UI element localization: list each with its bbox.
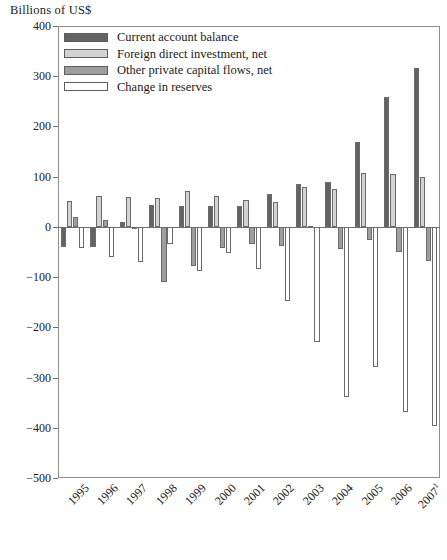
y-tick-label: −300	[26, 370, 51, 385]
bar-foreign-direct-investment-net-2002	[273, 202, 278, 227]
bar-change-in-reserves-1997	[138, 227, 143, 262]
bar-group-bars	[411, 26, 440, 478]
bar-foreign-direct-investment-net-2007	[420, 177, 425, 227]
bar-group-bars	[352, 26, 381, 478]
x-tick-label: 2000	[212, 481, 240, 509]
x-tick-label: 2002	[270, 481, 298, 509]
bar-group	[323, 26, 352, 478]
bar-change-in-reserves-2006	[403, 227, 408, 412]
bar-change-in-reserves-2000	[226, 227, 231, 254]
y-tick-label: 0	[45, 219, 51, 234]
x-tick-label: 20071	[414, 481, 445, 512]
bar-group	[381, 26, 410, 478]
bar-current-account-balance-2002	[267, 194, 272, 227]
legend-item-change-in-reserves: Change in reserves	[64, 79, 324, 96]
legend-label: Other private capital flows, net	[117, 64, 272, 77]
y-tick-label: 300	[33, 69, 51, 84]
x-tick-label: 2004	[329, 481, 357, 509]
bar-other-private-capital-flows-net-1999	[191, 227, 196, 266]
legend-swatch-other-private-capital-flows	[64, 66, 108, 75]
y-tick-label: −200	[26, 320, 51, 335]
y-tick-label: 400	[33, 19, 51, 34]
bar-current-account-balance-2006	[384, 97, 389, 227]
legend-item-foreign-direct-investment: Foreign direct investment, net	[64, 46, 324, 63]
legend-label: Current account balance	[117, 31, 238, 44]
x-axis-labels: 1995199619971998199920002001200220032004…	[58, 479, 440, 559]
bar-change-in-reserves-1996	[109, 227, 114, 257]
bar-foreign-direct-investment-net-2004	[332, 189, 337, 227]
bar-change-in-reserves-1999	[197, 227, 202, 271]
bar-current-account-balance-2001	[237, 206, 242, 227]
bar-group	[352, 26, 381, 478]
bar-current-account-balance-1997	[120, 222, 125, 227]
x-tick-label: 1998	[153, 481, 181, 509]
bar-foreign-direct-investment-net-1995	[67, 201, 72, 227]
x-tick-label: 1997	[123, 481, 151, 509]
legend-item-current-account-balance: Current account balance	[64, 29, 324, 46]
bar-current-account-balance-2004	[325, 182, 330, 227]
bar-change-in-reserves-2007	[432, 227, 437, 426]
bar-group-bars	[323, 26, 352, 478]
bar-other-private-capital-flows-net-2002	[279, 227, 284, 246]
bar-foreign-direct-investment-net-2000	[214, 196, 219, 227]
bar-other-private-capital-flows-net-1997	[132, 227, 137, 230]
y-axis-title: Billions of US$	[10, 3, 92, 18]
bar-other-private-capital-flows-net-2003	[308, 226, 313, 228]
x-tick-label: 2003	[300, 481, 328, 509]
legend-swatch-current-account-balance	[64, 33, 108, 42]
bar-change-in-reserves-2002	[285, 227, 290, 301]
legend-swatch-change-in-reserves	[64, 82, 108, 91]
bar-change-in-reserves-1998	[167, 227, 172, 244]
bar-other-private-capital-flows-net-2001	[249, 227, 254, 244]
y-tick-label: 200	[33, 119, 51, 134]
x-label-footnote-marker: 1	[431, 481, 440, 490]
bar-other-private-capital-flows-net-2006	[396, 227, 401, 252]
bar-current-account-balance-1996	[90, 227, 95, 247]
bar-current-account-balance-2000	[208, 206, 213, 227]
bar-change-in-reserves-2003	[314, 227, 319, 343]
bar-group	[411, 26, 440, 478]
bar-current-account-balance-1998	[149, 205, 154, 227]
x-tick-label: 2001	[241, 481, 269, 509]
x-tick-label: 1999	[182, 481, 210, 509]
x-tick-label: 1996	[94, 481, 122, 509]
bar-group-bars	[381, 26, 410, 478]
y-tick-label: −100	[26, 270, 51, 285]
x-tick-label: 1995	[65, 481, 93, 509]
y-tick-label: −500	[26, 471, 51, 486]
bar-foreign-direct-investment-net-1997	[126, 197, 131, 227]
x-tick-label: 2005	[359, 481, 387, 509]
bar-other-private-capital-flows-net-2000	[220, 227, 225, 249]
bar-other-private-capital-flows-net-2004	[338, 227, 343, 250]
bar-other-private-capital-flows-net-2007	[426, 227, 431, 261]
bar-current-account-balance-1999	[179, 206, 184, 227]
legend-label: Foreign direct investment, net	[117, 48, 267, 61]
bar-current-account-balance-1995	[61, 227, 66, 247]
chart-legend: Current account balanceForeign direct in…	[64, 29, 324, 95]
bar-other-private-capital-flows-net-2005	[367, 227, 372, 240]
bar-current-account-balance-2003	[296, 184, 301, 227]
bar-foreign-direct-investment-net-1998	[155, 198, 160, 227]
bar-foreign-direct-investment-net-1999	[185, 191, 190, 227]
x-tick-label: 2006	[388, 481, 416, 509]
bar-other-private-capital-flows-net-1998	[161, 227, 166, 282]
y-tick-label: −400	[26, 420, 51, 435]
bar-foreign-direct-investment-net-2006	[390, 174, 395, 227]
bar-other-private-capital-flows-net-1995	[73, 217, 78, 227]
legend-label: Change in reserves	[117, 81, 212, 94]
bar-foreign-direct-investment-net-2001	[243, 200, 248, 227]
bar-change-in-reserves-1995	[79, 227, 84, 248]
bar-foreign-direct-investment-net-2005	[361, 173, 366, 227]
bar-change-in-reserves-2004	[344, 227, 349, 397]
bar-foreign-direct-investment-net-2003	[302, 187, 307, 227]
bar-change-in-reserves-2005	[373, 227, 378, 368]
bar-other-private-capital-flows-net-1996	[103, 220, 108, 227]
legend-swatch-foreign-direct-investment	[64, 49, 108, 58]
bar-change-in-reserves-2001	[256, 227, 261, 269]
bar-foreign-direct-investment-net-1996	[96, 196, 101, 227]
bar-current-account-balance-2007	[414, 68, 419, 227]
bar-current-account-balance-2005	[355, 142, 360, 227]
y-tick-label: 100	[33, 169, 51, 184]
legend-item-other-private-capital-flows: Other private capital flows, net	[64, 62, 324, 79]
